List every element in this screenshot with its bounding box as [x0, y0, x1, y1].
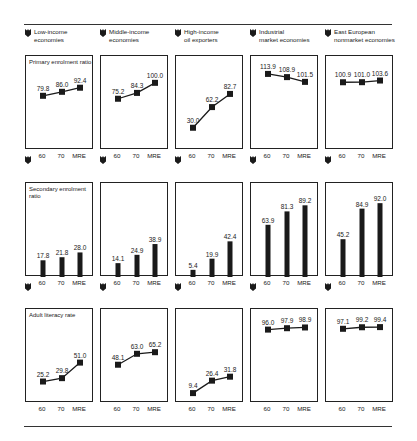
chart-panel: 30.062.282.7 [175, 55, 243, 149]
x-tick-label: 70 [58, 405, 65, 412]
x-tick-label: MRE [222, 152, 236, 159]
column-header-line1: High-income [184, 28, 219, 36]
data-point-marker [265, 71, 271, 77]
line-plot: 79.886.092.4 [26, 56, 94, 150]
shield-marker-icon [175, 29, 181, 37]
data-label: 9.4 [188, 382, 197, 389]
x-tick-label: 70 [283, 279, 290, 286]
bar-plot: 14.124.938.9 [101, 183, 169, 277]
x-tick-label: MRE [72, 405, 86, 412]
shield-marker-icon [175, 156, 181, 164]
data-label: 86.0 [56, 81, 69, 88]
data-point-marker [227, 374, 233, 380]
x-tick-label: MRE [147, 152, 161, 159]
x-tick-label: 70 [208, 405, 215, 412]
x-tick-label: 70 [58, 152, 65, 159]
x-tick-label: MRE [372, 405, 386, 412]
x-tick-label: 60 [339, 152, 346, 159]
data-label: 65.2 [149, 341, 162, 348]
data-label: 100.0 [147, 72, 164, 79]
data-point-marker [302, 79, 308, 85]
data-label: 113.9 [260, 63, 276, 70]
chart-panel: 63.981.389.2 [250, 182, 318, 276]
x-tick-label: 60 [189, 279, 196, 286]
x-tick-label: 60 [264, 152, 271, 159]
bar [191, 270, 196, 277]
x-tick-label: 60 [264, 279, 271, 286]
data-point-marker [59, 375, 65, 381]
shield-marker-icon [250, 283, 256, 291]
bar [116, 263, 121, 277]
x-tick-label: 70 [208, 279, 215, 286]
x-tick-label: 60 [189, 152, 196, 159]
data-point-marker [115, 362, 121, 368]
data-label: 92.0 [374, 195, 387, 202]
data-label: 51.0 [74, 352, 87, 359]
x-tick-label: 70 [283, 152, 290, 159]
column-header: High-incomeoil exporters [184, 28, 219, 43]
column-header: Industrialmarket economies [259, 28, 310, 43]
x-tick-label: MRE [222, 279, 236, 286]
shield-marker-icon [25, 156, 31, 164]
data-point-marker [340, 79, 346, 85]
chart-panel: Primary enrolment ratio79.886.092.4 [25, 55, 93, 149]
data-label: 99.4 [374, 316, 387, 323]
data-point-marker [59, 89, 65, 95]
shield-marker-icon [25, 283, 31, 291]
data-label: 97.1 [337, 318, 350, 325]
data-label: 30.0 [187, 117, 200, 124]
x-tick-label: 60 [189, 405, 196, 412]
data-label: 19.9 [206, 251, 219, 258]
data-label: 24.9 [131, 247, 144, 254]
column-header-line1: Low-income [34, 28, 67, 36]
bottom-rule [24, 426, 392, 427]
bar [266, 225, 271, 277]
top-rule [24, 24, 392, 25]
data-label: 45.2 [337, 231, 350, 238]
data-point-marker [190, 390, 196, 396]
bar [78, 252, 83, 277]
data-point-marker [377, 78, 383, 84]
line-plot: 9.426.431.8 [176, 309, 244, 403]
line-plot: 113.9108.9101.5 [251, 56, 319, 150]
chart-panel: 9.426.431.8 [175, 308, 243, 402]
chart-panel: 45.284.992.0 [325, 182, 393, 276]
data-point-marker [77, 85, 83, 91]
x-tick-label: MRE [297, 279, 311, 286]
data-label: 14.1 [112, 255, 125, 262]
bar [228, 241, 233, 277]
bar [378, 203, 383, 277]
x-tick-label: 60 [264, 405, 271, 412]
bar [303, 205, 308, 277]
x-tick-label: 70 [133, 152, 140, 159]
chart-panel: 48.163.065.2 [100, 308, 168, 402]
data-label: 82.7 [224, 83, 237, 90]
shield-marker-icon [100, 156, 106, 164]
line-plot: 97.199.299.4 [326, 309, 394, 403]
data-label: 21.8 [56, 249, 69, 256]
data-point-marker [115, 96, 121, 102]
x-tick-label: MRE [297, 152, 311, 159]
data-label: 62.2 [206, 96, 219, 103]
x-tick-label: 60 [39, 279, 46, 286]
column-header: Middle-incomeeconomies [109, 28, 149, 43]
column-header-line1: Middle-income [109, 28, 149, 36]
x-tick-label: 60 [339, 405, 346, 412]
column-header-line2: nonmarket economies [334, 36, 395, 44]
x-tick-label: 70 [133, 405, 140, 412]
data-label: 31.8 [224, 366, 237, 373]
x-tick-label: 60 [114, 152, 121, 159]
data-point-marker [190, 125, 196, 131]
bar [360, 209, 365, 277]
bar [41, 260, 46, 277]
x-tick-label: 60 [114, 279, 121, 286]
data-label: 99.2 [356, 316, 369, 323]
x-tick-label: MRE [372, 279, 386, 286]
x-tick-label: MRE [147, 279, 161, 286]
x-tick-label: MRE [297, 405, 311, 412]
data-label: 89.2 [299, 197, 312, 204]
column-header-line2: economies [109, 36, 149, 44]
x-tick-label: MRE [147, 405, 161, 412]
x-tick-label: 60 [339, 279, 346, 286]
data-label: 63.9 [262, 217, 275, 224]
